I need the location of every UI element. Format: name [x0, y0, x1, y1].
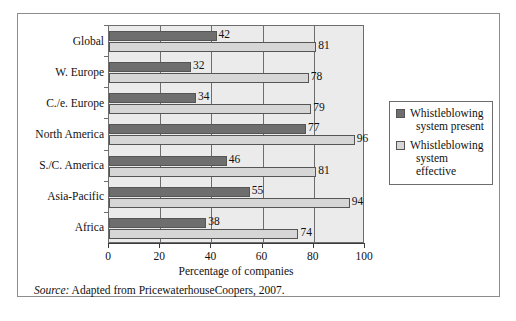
bar-group: 4681	[109, 151, 363, 182]
bar-value-label: 38	[208, 216, 220, 227]
category-label: Africa	[75, 221, 104, 233]
category-label: Global	[73, 35, 104, 47]
bar-system-present	[109, 218, 206, 228]
bar-group: 4281	[109, 26, 363, 57]
category-axis-labels: GlobalW. EuropeC./e. EuropeNorth America…	[18, 25, 104, 243]
bar-system-effective	[109, 229, 298, 239]
bar-group: 3278	[109, 57, 363, 88]
bar-value-label: 96	[357, 133, 369, 144]
legend-label-present: Whistleblowing system present	[410, 107, 484, 133]
bar-value-label: 79	[313, 102, 325, 113]
bar-system-present	[109, 31, 217, 41]
bar-group: 3874	[109, 213, 363, 244]
legend-swatch-effective-icon	[396, 141, 405, 150]
bar-system-present	[109, 62, 191, 72]
x-axis-tick	[313, 243, 314, 248]
bar-value-label: 94	[352, 196, 364, 207]
x-axis-tick-label: 60	[256, 250, 268, 262]
category-label: C./e. Europe	[46, 97, 104, 109]
source-label: Source:	[34, 284, 69, 296]
bar-value-label: 77	[308, 122, 320, 133]
bar-system-effective	[109, 198, 350, 208]
x-axis-tick-label: 20	[153, 250, 165, 262]
legend-label-effective: Whistleblowing system effective	[410, 139, 486, 178]
plot-area: 4281327834797796468155943874	[108, 25, 364, 243]
bar-system-effective	[109, 104, 311, 114]
x-axis-tick	[364, 243, 365, 248]
bar-value-label: 81	[318, 165, 330, 176]
bar-group: 7796	[109, 119, 363, 150]
category-label: North America	[35, 128, 104, 140]
bar-value-label: 78	[311, 71, 323, 82]
legend-swatch-present-icon	[396, 109, 405, 118]
x-axis-tick	[262, 243, 263, 248]
x-axis-tick-label: 40	[205, 250, 217, 262]
bar-value-label: 32	[193, 60, 205, 71]
bar-system-present	[109, 156, 227, 166]
x-axis-tick	[210, 243, 211, 248]
bar-system-effective	[109, 167, 316, 177]
bar-value-label: 34	[198, 91, 210, 102]
bar-system-present	[109, 93, 196, 103]
figure-container: GlobalW. EuropeC./e. EuropeNorth America…	[17, 13, 500, 297]
bar-value-label: 55	[252, 185, 264, 196]
legend-item-present: Whistleblowing system present	[396, 107, 486, 133]
bar-value-label: 46	[229, 154, 241, 165]
x-axis: 020406080100	[108, 243, 364, 244]
bar-system-effective	[109, 73, 309, 83]
bar-system-effective	[109, 135, 355, 145]
x-axis-tick-label: 100	[355, 250, 372, 262]
bar-system-effective	[109, 42, 316, 52]
x-axis-tick-label: 0	[105, 250, 111, 262]
bar-value-label: 74	[300, 227, 312, 238]
bar-system-present	[109, 124, 306, 134]
x-axis-tick	[108, 243, 109, 248]
legend-item-effective: Whistleblowing system effective	[396, 139, 486, 178]
category-label: Asia-Pacific	[47, 190, 104, 202]
x-axis-tick-label: 80	[307, 250, 319, 262]
category-label: W. Europe	[55, 66, 104, 78]
chart-legend: Whistleblowing system present Whistleblo…	[389, 101, 493, 185]
bar-group: 3479	[109, 88, 363, 119]
x-axis-title: Percentage of companies	[108, 265, 364, 277]
bar-value-label: 42	[219, 29, 231, 40]
x-axis-tick	[159, 243, 160, 248]
bar-value-label: 81	[318, 40, 330, 51]
bar-system-present	[109, 187, 250, 197]
bar-group: 5594	[109, 182, 363, 213]
source-note: Source: Adapted from PricewaterhouseCoop…	[34, 284, 285, 296]
category-label: S./C. America	[39, 159, 104, 171]
source-text: Adapted from PricewaterhouseCoopers, 200…	[69, 284, 284, 296]
